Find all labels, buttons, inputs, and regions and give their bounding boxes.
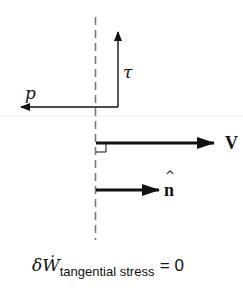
tau-label: τ: [123, 64, 132, 81]
equation-lhs: δẆ: [32, 255, 60, 275]
pressure-label: p: [25, 85, 36, 102]
diagram-canvas: τ p V n δẆtangential stress = 0: [0, 0, 243, 303]
unit-normal-symbol: n: [164, 181, 174, 199]
normal-label: n: [164, 181, 174, 199]
equation-rhs: = 0: [160, 256, 184, 275]
equation-subscript: tangential stress: [60, 264, 155, 279]
velocity-label: V: [225, 134, 238, 152]
work-equation: δẆtangential stress = 0: [32, 257, 184, 274]
right-angle-icon: [96, 144, 106, 152]
